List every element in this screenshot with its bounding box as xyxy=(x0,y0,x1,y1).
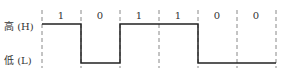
bit-boundaries xyxy=(42,10,276,68)
low-level-label: 低 (L) xyxy=(4,54,32,66)
high-level-label: 高 (H) xyxy=(4,20,34,32)
bit-label: 0 xyxy=(97,10,103,21)
bit-label: 0 xyxy=(253,10,259,21)
signal-waveform xyxy=(42,24,276,63)
bit-label: 0 xyxy=(214,10,220,21)
bit-label: 1 xyxy=(58,10,64,21)
bit-label: 1 xyxy=(136,10,142,21)
signal-diagram: 高 (H) 低 (L) 1 0 1 1 0 0 xyxy=(0,0,288,72)
bit-label: 1 xyxy=(175,10,181,21)
